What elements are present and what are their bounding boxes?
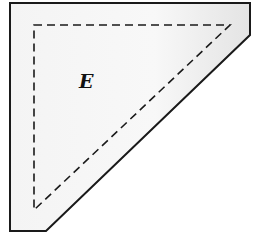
outer-region-shape: [10, 3, 250, 231]
region-label: E: [78, 70, 94, 92]
diagram-canvas: E: [0, 0, 253, 239]
